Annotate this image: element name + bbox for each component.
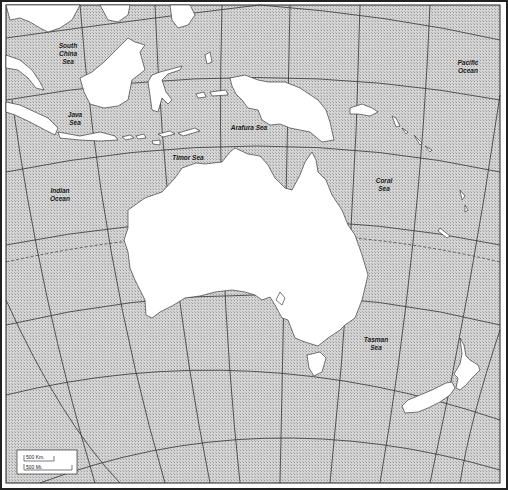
label-arafura-sea: Arafura Sea <box>230 124 268 131</box>
label-indian-ocean: IndianOcean <box>50 187 70 202</box>
scale-mi-label: 500 Mi. <box>26 464 42 470</box>
label-java-sea: JavaSea <box>68 111 83 126</box>
label-timor-sea: Timor Sea <box>172 154 204 161</box>
label-pacific-ocean: PacificOcean <box>458 59 479 74</box>
scale-bar: 500 Km. 500 Mi. <box>17 450 77 474</box>
map-container: SouthChinaSea JavaSea Arafura Sea Timor … <box>0 0 508 490</box>
scale-km-label: 500 Km. <box>26 454 45 460</box>
